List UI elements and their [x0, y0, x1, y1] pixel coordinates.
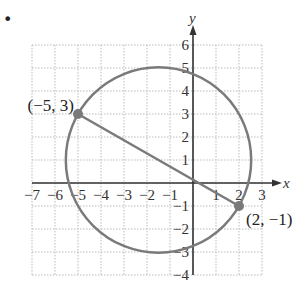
y-axis-arrow-icon [190, 25, 197, 35]
point-marker [73, 109, 83, 119]
y-tick-label: 4 [182, 83, 190, 99]
x-axis-arrow-icon [272, 180, 282, 187]
point-label-endpoint-1: (−5, 3) [28, 96, 74, 115]
y-tick-label: 6 [182, 37, 190, 53]
y-tick-label: 1 [182, 152, 190, 168]
y-tick-label: 5 [182, 60, 190, 76]
point-label-endpoint-2: (2, −1) [246, 210, 292, 229]
x-tick-label: −3 [116, 187, 132, 203]
y-axis-label: y [187, 10, 196, 26]
axes: xy [32, 10, 290, 275]
y-tick-label: 3 [182, 106, 190, 122]
x-tick-label: −6 [47, 187, 63, 203]
x-axis-label: x [282, 175, 290, 191]
x-tick-label: −7 [24, 187, 40, 203]
y-tick-label: −1 [173, 198, 189, 214]
x-tick-label: 3 [258, 187, 266, 203]
point-labels: (−5, 3)(2, −1) [28, 96, 293, 229]
plot-shapes [66, 67, 251, 252]
coordinate-plane: xy −7−6−5−4−3−2−1123654321−1−2−3−4 (−5, … [0, 0, 300, 285]
y-tick-label: −2 [173, 221, 189, 237]
x-tick-label: −4 [93, 187, 109, 203]
y-tick-label: 2 [182, 129, 190, 145]
x-tick-label: −2 [139, 187, 155, 203]
point-marker [234, 201, 244, 211]
y-tick-label: −4 [173, 267, 189, 283]
